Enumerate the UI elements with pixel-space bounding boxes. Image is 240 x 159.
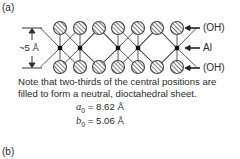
hydroxyl-atom — [132, 22, 145, 35]
aluminum-atom — [78, 46, 82, 50]
hydroxyl-atom — [93, 22, 106, 35]
thickness-label: ~5 Å — [19, 42, 39, 53]
aluminum-atom — [136, 46, 140, 50]
b0-parameter: b0 = 5.06 Å — [76, 115, 124, 128]
hydroxyl-atom — [171, 22, 184, 35]
hydroxyl-atom — [54, 22, 67, 35]
aluminum-atom — [58, 46, 62, 50]
panel-b-label: (b) — [2, 146, 14, 157]
aluminum-atom — [175, 46, 179, 50]
note-line-1: Note that two-thirds of the central posi… — [18, 76, 216, 88]
bottom-oh-layer-label: (OH) — [203, 62, 225, 73]
note-line-2: filled to form a neutral, dioctahedral s… — [18, 88, 197, 100]
hydroxyl-atom — [112, 22, 125, 35]
al-layer-label: Al — [203, 42, 212, 53]
hydroxyl-atom — [112, 61, 125, 74]
a0-value: = 8.62 Å — [85, 101, 124, 112]
hydroxyl-atom — [74, 61, 87, 74]
hydroxyl-atom — [171, 61, 184, 74]
a0-parameter: a0 = 8.62 Å — [76, 101, 124, 114]
hydroxyl-atom — [74, 22, 87, 35]
hydroxyl-atom — [132, 61, 145, 74]
hydroxyl-atom — [151, 22, 164, 35]
hydroxyl-atom — [151, 61, 164, 74]
aluminum-atom — [116, 46, 120, 50]
b0-value: = 5.06 Å — [85, 115, 124, 126]
hydroxyl-atom — [93, 61, 106, 74]
hydroxyl-atom — [54, 61, 67, 74]
top-oh-layer-label: (OH) — [203, 22, 225, 33]
